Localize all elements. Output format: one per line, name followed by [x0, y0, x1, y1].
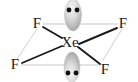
- atom-label-fluorine-bottom-left: F: [9, 57, 21, 72]
- electron-dot-top-left: [67, 8, 72, 13]
- atom-label-fluorine-top-right: F: [117, 16, 129, 31]
- atom-label-fluorine-top-left: F: [31, 16, 43, 31]
- bond-xe-f-top-right: [79, 28, 117, 44]
- atom-label-xenon: Xe: [59, 35, 81, 50]
- bond-xe-f-bottom-left: [22, 46, 62, 63]
- guide-line-left-edge: [17, 29, 37, 59]
- electron-dot-top-right: [75, 8, 80, 13]
- lone-pair-top-lobe: [65, 0, 82, 31]
- electron-dot-bottom-right: [74, 71, 79, 76]
- lone-pair-bottom-lobe: [64, 52, 80, 82]
- bond-xe-f-bottom-right: [78, 47, 100, 64]
- electron-dot-bottom-left: [66, 71, 71, 76]
- atom-label-fluorine-bottom-right: F: [99, 62, 111, 77]
- lewis-structure-diagram: Xe F F F F: [0, 0, 138, 82]
